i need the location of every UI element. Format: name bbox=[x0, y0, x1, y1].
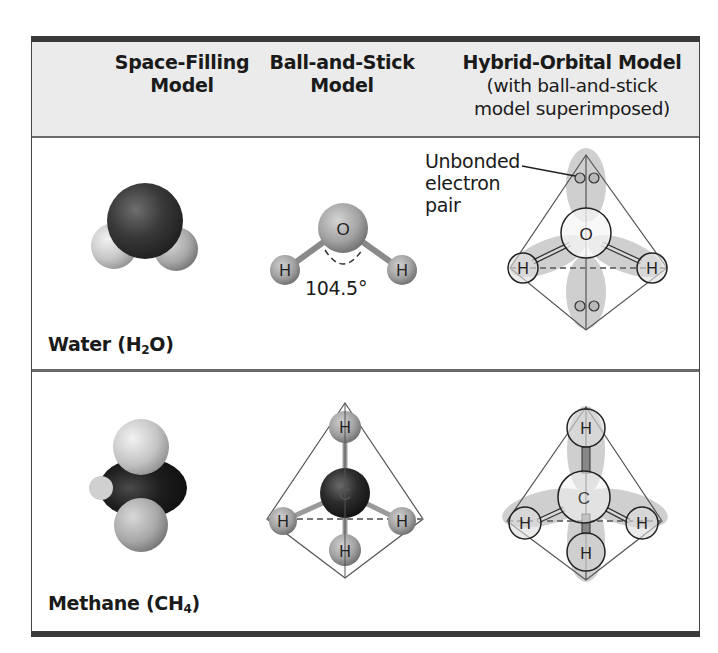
formula-suffix: ) bbox=[192, 592, 200, 614]
methane-hybrid-orbital-model: H C H H H bbox=[498, 406, 672, 582]
molecule-name: Methane bbox=[48, 592, 140, 614]
methane-space-filling-model bbox=[89, 419, 187, 552]
atom-label-h: H bbox=[339, 543, 351, 560]
atom-label-h: H bbox=[517, 260, 529, 277]
atom-label-h: H bbox=[277, 513, 289, 530]
atom-label-h: H bbox=[396, 513, 408, 530]
hydrogen-sphere-icon bbox=[114, 498, 168, 552]
water-space-filling-model bbox=[91, 183, 198, 271]
atom-label-c: C bbox=[578, 489, 590, 508]
water-hybrid-orbital-model: O H H bbox=[505, 148, 668, 330]
hydrogen-sphere-icon bbox=[89, 476, 113, 500]
atom-label-h: H bbox=[646, 260, 658, 277]
atom-label-h: H bbox=[636, 515, 648, 532]
atom-label-o: O bbox=[579, 225, 592, 244]
annotation-line: pair bbox=[425, 194, 520, 216]
oxygen-sphere-icon bbox=[107, 183, 183, 259]
water-ball-and-stick-model: O H H bbox=[270, 203, 417, 285]
hydrogen-sphere-icon bbox=[113, 419, 169, 475]
methane-label: Methane (CH4) bbox=[48, 592, 200, 616]
formula-prefix: (H bbox=[117, 333, 141, 355]
electron-dot-icon bbox=[575, 173, 585, 183]
atom-label-c: C bbox=[339, 485, 351, 504]
molecule-diagrams: O H H O H H bbox=[0, 0, 718, 653]
atom-label-h: H bbox=[580, 420, 592, 437]
methane-ball-and-stick-model: H C H H H bbox=[267, 403, 423, 578]
electron-dot-icon bbox=[589, 301, 599, 311]
atom-label-h: H bbox=[580, 545, 592, 562]
annotation-line: electron bbox=[425, 172, 520, 194]
atom-label-h: H bbox=[339, 419, 351, 436]
electron-dot-icon bbox=[589, 173, 599, 183]
electron-dot-icon bbox=[575, 301, 585, 311]
formula-subscript: 4 bbox=[184, 602, 192, 616]
atom-label-h: H bbox=[396, 262, 408, 279]
formula-prefix: (CH bbox=[146, 592, 184, 614]
atom-label-h: H bbox=[519, 515, 531, 532]
bond-angle-label: 104.5° bbox=[305, 277, 367, 299]
unbonded-electron-pair-label: Unbonded electron pair bbox=[425, 150, 520, 216]
formula-suffix: O) bbox=[149, 333, 173, 355]
atom-label-o: O bbox=[336, 220, 349, 239]
water-label: Water (H2O) bbox=[48, 333, 174, 357]
leader-line bbox=[522, 166, 575, 176]
annotation-line: Unbonded bbox=[425, 150, 520, 172]
molecule-name: Water bbox=[48, 333, 111, 355]
atom-label-h: H bbox=[279, 262, 291, 279]
